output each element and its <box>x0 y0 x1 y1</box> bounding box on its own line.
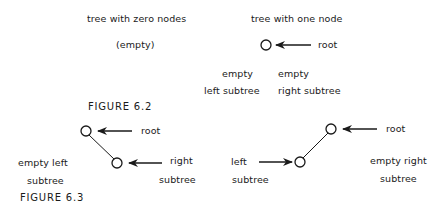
right-child-tree-empty-line2: subtree <box>27 176 64 186</box>
root-node <box>326 124 336 134</box>
one-tree-title: tree with one node <box>251 14 343 24</box>
root-node <box>81 126 91 136</box>
right-child-tree-child-line1: right <box>170 156 193 166</box>
one-tree-left-subtree: left subtree <box>204 86 260 96</box>
left-child-tree-child-line2: subtree <box>232 175 269 185</box>
left-child-tree-empty-line1: empty right <box>370 156 427 166</box>
left-child-tree-child-line1: left <box>231 157 247 167</box>
edge <box>303 133 328 158</box>
right-child-tree-root-label: root <box>141 126 160 136</box>
right-child-tree-empty-line1: empty left <box>18 158 68 168</box>
one-node-tree <box>261 40 311 50</box>
figure-6-2-caption: FIGURE 6.2 <box>88 102 152 112</box>
one-tree-right-subtree: right subtree <box>278 86 341 96</box>
left-child-tree-empty-line2: subtree <box>380 174 417 184</box>
root-node <box>261 40 271 50</box>
zero-tree-title: tree with zero nodes <box>87 14 186 24</box>
one-tree-root-label: root <box>318 40 337 50</box>
left-child-tree-root-label: root <box>386 124 405 134</box>
right-child-node <box>112 158 122 168</box>
edge <box>89 135 114 159</box>
zero-tree-empty: (empty) <box>116 40 155 50</box>
right-child-tree-child-line2: subtree <box>159 175 196 185</box>
one-tree-left-empty: empty <box>222 69 253 79</box>
tree-with-left-child <box>259 124 377 167</box>
figure-6-3-caption: FIGURE 6.3 <box>20 193 84 203</box>
tree-diagrams <box>0 0 443 205</box>
one-tree-right-empty: empty <box>278 69 309 79</box>
left-child-node <box>295 157 305 167</box>
